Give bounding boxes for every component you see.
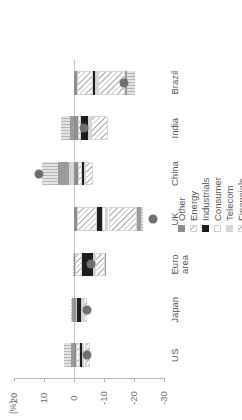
legend-swatch-icon [226,225,233,232]
legend-swatch-icon [238,225,242,232]
y-axis-tick-label: -20 [128,391,139,405]
bar-segment [109,207,138,231]
chart-legend: OtherEnergyIndustrialsConsumerTelecomFin… [176,6,242,232]
y-axis-tick-label: 10 [38,393,49,404]
bar-segment [71,344,74,368]
bar-segment [71,298,72,322]
legend-label: Consumer [212,177,223,221]
legend-label: Energy [188,191,199,221]
bar-segment [105,253,106,277]
bar-segment [42,162,58,186]
y-axis-tick-label: 0 [68,395,79,400]
category-label: Japan [170,297,180,323]
legend-swatch-icon [190,225,197,232]
bar-segment [91,116,108,140]
legend-item[interactable]: Industrials [200,6,212,232]
bar-segment [58,162,69,186]
bar-segment [75,253,82,277]
bar-segment [69,162,74,186]
bar-segment [64,344,70,368]
category-label: Euroarea [170,254,190,274]
legend-item[interactable]: Financials [236,6,242,232]
legend-label: Other [176,197,187,221]
legend-label: Financials [236,178,242,221]
bar-segment [95,253,105,277]
legend-item[interactable]: Other [176,6,188,232]
rotated-figure-wrapper: (%) 20100-10-20-30 USJapanEuroareaUKChin… [0,0,242,420]
overall-performance-marker [82,351,91,360]
legend-label: Industrials [200,178,211,221]
chart-figure: (%) 20100-10-20-30 USJapanEuroareaUKChin… [0,0,242,420]
y-axis-tick-label: 20 [8,393,19,404]
bar-segment [77,207,97,231]
overall-performance-marker [148,215,157,224]
y-axis-tick-label: -10 [98,391,109,405]
bar-segment [61,116,70,140]
overall-performance-marker [79,124,88,133]
plot-area [14,60,164,378]
bar-segment [70,116,74,140]
y-axis-tick-label: -30 [158,391,169,405]
overall-performance-marker [34,169,43,178]
legend-item[interactable]: Consumer [212,6,224,232]
legend-label: Telecom [224,186,235,221]
bar-segment [73,253,75,277]
legend-swatch-icon [178,225,185,232]
legend-swatch-icon [202,225,209,232]
overall-performance-marker [86,260,95,269]
y-axis-tick [164,378,165,382]
legend-swatch-icon [214,225,221,232]
y-axis-spine [14,378,164,379]
bar-segment [72,298,74,322]
bar-segment [77,71,93,95]
bar-segment [141,207,143,231]
overall-performance-marker [120,78,129,87]
legend-item[interactable]: Telecom [224,6,236,232]
category-label: US [170,349,180,362]
legend-item[interactable]: Energy [188,6,200,232]
bar-segment [85,162,93,186]
overall-performance-marker [83,305,92,314]
